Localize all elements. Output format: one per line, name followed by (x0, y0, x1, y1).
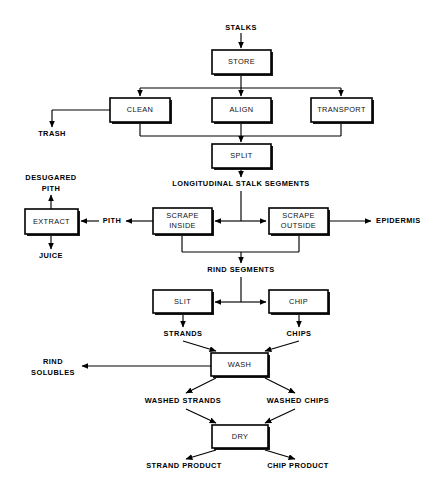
process-box-scrape-inside-label-line1: SCRAPE (166, 211, 199, 220)
material-label-rind-segments: RIND SEGMENTS (207, 265, 274, 274)
edge-wash-to-washed-strands (186, 378, 216, 393)
material-label-desugared-pith-line1: DESUGARED (25, 173, 76, 182)
edge-dry-to-chip-product (265, 450, 295, 459)
process-box-split[interactable]: SPLIT (212, 144, 273, 170)
material-label-juice: JUICE (39, 251, 63, 260)
process-box-scrape-inside[interactable]: SCRAPE INSIDE (153, 208, 214, 236)
edge-chips-to-wash (265, 341, 299, 351)
material-label-epidermis: EPIDERMIS (376, 216, 421, 225)
material-label-group: STALKS TRASH LONGITUDINAL STALK SEGMENTS… (25, 23, 420, 470)
material-label-chips: CHIPS (287, 329, 312, 338)
process-flow-diagram: STORE CLEAN ALIGN TRANSPORT SPLIT (0, 0, 443, 491)
process-box-chip-label: CHIP (289, 297, 308, 306)
process-box-align[interactable]: ALIGN (212, 98, 273, 124)
process-box-slit[interactable]: SLIT (153, 290, 214, 315)
process-box-transport[interactable]: TRANSPORT (311, 98, 374, 124)
process-box-slit-label: SLIT (174, 297, 191, 306)
process-box-align-label: ALIGN (230, 105, 254, 114)
edge-strands-to-wash (183, 341, 216, 351)
process-box-clean-label: CLEAN (127, 105, 153, 114)
flowchart-canvas: STORE CLEAN ALIGN TRANSPORT SPLIT (0, 0, 443, 491)
material-label-washed-chips: WASHED CHIPS (267, 396, 329, 405)
process-box-scrape-outside[interactable]: SCRAPE OUTSIDE (269, 208, 330, 236)
process-box-scrape-inside-label-line2: INSIDE (169, 221, 196, 230)
material-label-strands: STRANDS (164, 329, 203, 338)
edge-dry-to-strand-product (186, 450, 216, 459)
process-box-dry-label: DRY (232, 432, 249, 441)
process-box-store-label: STORE (228, 57, 255, 66)
process-box-split-label: SPLIT (230, 151, 252, 160)
process-box-wash-label: WASH (228, 360, 251, 369)
process-box-scrape-outside-label-line2: OUTSIDE (281, 221, 316, 230)
process-box-transport-label: TRANSPORT (317, 105, 366, 114)
process-box-extract[interactable]: EXTRACT (25, 209, 80, 236)
process-box-chip[interactable]: CHIP (269, 290, 330, 315)
material-label-washed-strands: WASHED STRANDS (145, 396, 222, 405)
process-box-scrape-outside-label-line1: SCRAPE (282, 211, 315, 220)
process-box-dry[interactable]: DRY (212, 425, 270, 450)
edge-wash-to-washed-chips (265, 378, 295, 393)
material-label-strand-product: STRAND PRODUCT (146, 461, 222, 470)
process-box-clean[interactable]: CLEAN (110, 98, 172, 124)
material-label-pith: PITH (103, 216, 122, 225)
process-box-store[interactable]: STORE (212, 50, 273, 76)
material-label-chip-product: CHIP PRODUCT (267, 461, 329, 470)
material-label-desugared-pith-line2: PITH (42, 184, 61, 193)
edge-washed-chips-to-dry (265, 409, 295, 423)
material-label-stalks: STALKS (225, 23, 257, 32)
process-box-extract-label: EXTRACT (33, 217, 70, 226)
material-label-trash: TRASH (38, 129, 66, 138)
material-label-longitudinal-stalk-segments: LONGITUDINAL STALK SEGMENTS (172, 179, 310, 188)
process-box-wash[interactable]: WASH (211, 353, 270, 378)
material-label-rind-solubles-line1: RIND (43, 357, 63, 366)
edge-washed-strands-to-dry (186, 409, 216, 423)
material-label-rind-solubles-line2: SOLUBLES (31, 368, 75, 377)
